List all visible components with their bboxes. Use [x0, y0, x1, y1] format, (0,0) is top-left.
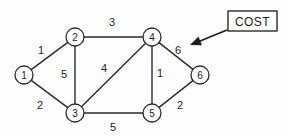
edge-weight-2-3: 5	[61, 68, 67, 80]
node-5: 5	[143, 104, 161, 122]
edges-group	[31, 37, 193, 113]
node-3-label: 3	[72, 108, 78, 119]
cost-label-text: COST	[235, 15, 270, 29]
edge-weight-5-6: 2	[177, 99, 183, 111]
node-6: 6	[191, 66, 209, 84]
edge-3-4	[81, 43, 145, 106]
edge-weight-1-2: 1	[38, 44, 44, 56]
graph-diagram: 1 2 3 4 5 6 1 2	[0, 0, 287, 137]
edge-weight-3-5: 5	[110, 121, 116, 133]
node-4-label: 4	[149, 32, 155, 43]
figure-canvas: 1 2 3 4 5 6 1 2	[0, 0, 287, 137]
edge-weight-1-3: 2	[37, 99, 43, 111]
node-2: 2	[66, 28, 84, 46]
node-1: 1	[15, 66, 33, 84]
edge-1-2	[31, 42, 68, 69]
node-4: 4	[143, 28, 161, 46]
node-6-label: 6	[197, 70, 203, 81]
edge-weight-4-5: 1	[157, 67, 163, 79]
node-5-label: 5	[149, 108, 155, 119]
edge-weight-2-4: 3	[109, 16, 115, 28]
edge-weight-3-4: 4	[101, 62, 107, 74]
cost-arrow-head-icon	[190, 37, 202, 46]
node-2-label: 2	[72, 32, 78, 43]
node-3: 3	[66, 104, 84, 122]
cost-annotation: COST	[190, 11, 277, 45]
edge-weight-4-6: 6	[175, 44, 181, 56]
node-1-label: 1	[21, 70, 27, 81]
cost-arrow-line	[198, 30, 227, 42]
